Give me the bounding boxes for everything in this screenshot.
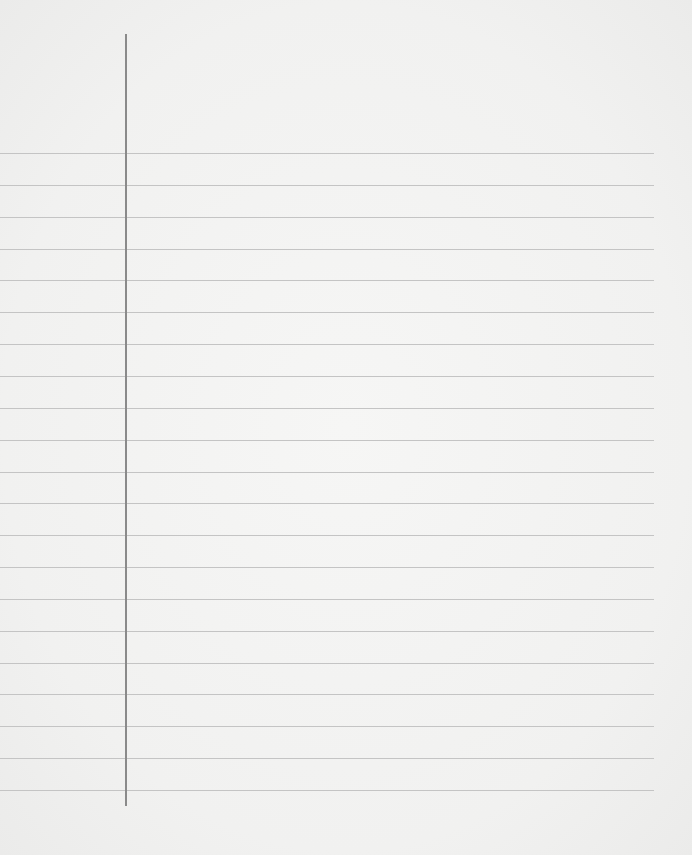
margin-line <box>125 34 127 806</box>
ruled-line <box>0 408 654 409</box>
ruled-line <box>0 503 654 504</box>
ruled-line <box>0 440 654 441</box>
ruled-line <box>0 472 654 473</box>
ruled-line <box>0 663 654 664</box>
ruled-line <box>0 217 654 218</box>
ruled-line <box>0 249 654 250</box>
ruled-line <box>0 758 654 759</box>
ruled-line <box>0 726 654 727</box>
lined-paper <box>0 0 692 855</box>
ruled-line <box>0 535 654 536</box>
ruled-line <box>0 631 654 632</box>
ruled-line <box>0 694 654 695</box>
ruled-line <box>0 344 654 345</box>
ruled-line <box>0 153 654 154</box>
ruled-line <box>0 790 654 791</box>
ruled-line <box>0 376 654 377</box>
ruled-line <box>0 185 654 186</box>
ruled-line <box>0 280 654 281</box>
ruled-line <box>0 567 654 568</box>
ruled-line <box>0 312 654 313</box>
ruled-line <box>0 599 654 600</box>
